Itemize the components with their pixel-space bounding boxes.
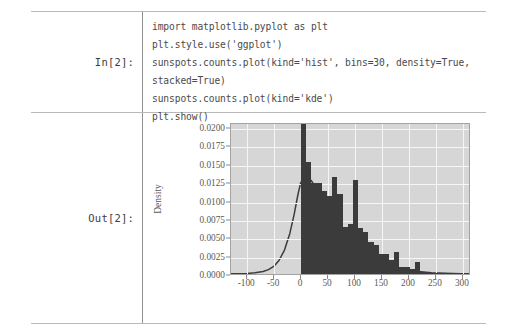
y-axis-tick-label: 0.0050 bbox=[165, 233, 225, 243]
gridline-horizontal bbox=[231, 129, 469, 130]
gridline-vertical bbox=[409, 124, 410, 274]
x-axis-tick-label: 0 bbox=[298, 278, 303, 288]
code-line: import matplotlib.pyplot as plt bbox=[152, 18, 486, 36]
gridline-horizontal bbox=[231, 221, 469, 222]
output-prompt-column: Out[2]: bbox=[31, 113, 143, 323]
x-axis-tick-label: 300 bbox=[455, 278, 469, 288]
notebook-container: In[2]: import matplotlib.pyplot as plt p… bbox=[31, 11, 486, 324]
y-axis-tick-mark bbox=[226, 146, 230, 147]
x-axis-tick-mark bbox=[327, 275, 328, 279]
histogram-kde-chart: Density 0.00000.00250.00500.00750.01000.… bbox=[152, 123, 478, 319]
input-cell: In[2]: import matplotlib.pyplot as plt p… bbox=[31, 12, 486, 113]
y-axis-tick-labels: 0.00000.00250.00500.00750.01000.01250.01… bbox=[165, 123, 225, 275]
figure-wrapper: Density 0.00000.00250.00500.00750.01000.… bbox=[152, 119, 486, 319]
y-axis-tick-mark bbox=[226, 183, 230, 184]
x-axis-tick-labels: -100-50050100150200250300 bbox=[230, 278, 470, 294]
code-line: sunspots.counts.plot(kind='hist', bins=3… bbox=[152, 54, 486, 72]
y-axis-tick-label: 0.0125 bbox=[165, 178, 225, 188]
x-axis-tick-mark bbox=[435, 275, 436, 279]
gridline-horizontal bbox=[231, 184, 469, 185]
y-axis-tick-mark bbox=[226, 256, 230, 257]
x-axis-tick-label: 200 bbox=[401, 278, 415, 288]
x-axis-tick-label: -50 bbox=[267, 278, 279, 288]
x-axis-tick-mark bbox=[381, 275, 382, 279]
y-axis-tick-mark bbox=[226, 164, 230, 165]
y-axis-tick-label: 0.0200 bbox=[165, 123, 225, 133]
y-axis-tick-mark bbox=[226, 238, 230, 239]
gridline-vertical bbox=[436, 124, 437, 274]
x-axis-tick-mark bbox=[246, 275, 247, 279]
code-line: sunspots.counts.plot(kind='kde') bbox=[152, 90, 486, 108]
x-axis-tick-label: 250 bbox=[428, 278, 442, 288]
gridline-vertical bbox=[382, 124, 383, 274]
gridline-vertical bbox=[247, 124, 248, 274]
output-cell: Out[2]: Density 0.00000.00250.00500.0075… bbox=[31, 113, 486, 323]
output-prompt-label: Out[2]: bbox=[88, 212, 134, 224]
y-axis-tick-label: 0.0100 bbox=[165, 197, 225, 207]
code-line: plt.style.use('ggplot') bbox=[152, 36, 486, 54]
y-axis-tick-label: 0.0075 bbox=[165, 215, 225, 225]
y-axis-label-text: Density bbox=[153, 184, 163, 214]
x-axis-tick-label: 50 bbox=[322, 278, 331, 288]
input-prompt-label: In[2]: bbox=[95, 56, 134, 68]
y-axis-tick-label: 0.0000 bbox=[165, 270, 225, 280]
output-area: Density 0.00000.00250.00500.00750.01000.… bbox=[143, 113, 486, 323]
y-axis-tick-mark bbox=[226, 128, 230, 129]
x-axis-tick-mark bbox=[462, 275, 463, 279]
x-axis-tick-label: 100 bbox=[347, 278, 361, 288]
x-axis-tick-label: 150 bbox=[374, 278, 388, 288]
x-axis-tick-mark bbox=[300, 275, 301, 279]
y-axis-tick-label: 0.0175 bbox=[165, 141, 225, 151]
gridline-vertical bbox=[463, 124, 464, 274]
code-line: stacked=True) bbox=[152, 72, 486, 90]
plot-area bbox=[230, 123, 470, 275]
gridline-horizontal bbox=[231, 203, 469, 204]
y-axis-tick-label: 0.0150 bbox=[165, 160, 225, 170]
histogram-bar bbox=[451, 273, 456, 274]
code-editor[interactable]: import matplotlib.pyplot as plt plt.styl… bbox=[143, 12, 486, 112]
x-axis-tick-mark bbox=[408, 275, 409, 279]
gridline-horizontal bbox=[231, 147, 469, 148]
gridline-vertical bbox=[274, 124, 275, 274]
y-axis-tick-mark bbox=[226, 275, 230, 276]
input-prompt-column: In[2]: bbox=[31, 12, 143, 112]
x-axis-tick-mark bbox=[273, 275, 274, 279]
x-axis-tick-mark bbox=[354, 275, 355, 279]
y-axis-tick-mark bbox=[226, 201, 230, 202]
y-axis-label: Density bbox=[151, 123, 165, 275]
y-axis-tick-label: 0.0025 bbox=[165, 252, 225, 262]
histogram-bar bbox=[441, 273, 446, 274]
x-axis-tick-label: -100 bbox=[238, 278, 255, 288]
y-axis-tick-mark bbox=[226, 219, 230, 220]
gridline-horizontal bbox=[231, 166, 469, 167]
